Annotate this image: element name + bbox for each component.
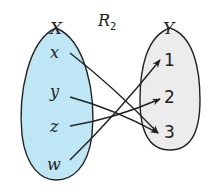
set-y-label: Y <box>163 18 176 38</box>
title-subscript: 2 <box>110 21 116 32</box>
element-w: w <box>47 155 61 174</box>
element-1: 1 <box>164 50 175 70</box>
relation-diagram: X Y R 2 x y z w 1 2 3 <box>0 0 212 191</box>
element-3: 3 <box>164 122 175 142</box>
element-z: z <box>49 117 59 136</box>
set-x-label: X <box>48 18 63 38</box>
element-y: y <box>49 82 60 101</box>
relation-title: R 2 <box>97 11 116 32</box>
element-x: x <box>50 43 59 62</box>
element-2: 2 <box>164 87 175 107</box>
title-main: R <box>97 11 110 30</box>
